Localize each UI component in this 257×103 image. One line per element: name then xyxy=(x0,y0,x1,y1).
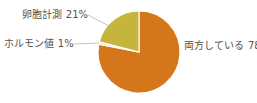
leader-line-hormone xyxy=(74,43,99,44)
pie-label-follicle: 卵胞計測 21% xyxy=(22,9,88,21)
pie-label-hormone: ホルモン値 1% xyxy=(4,38,74,50)
leader-line-follicle xyxy=(88,15,111,27)
pie-chart-figure: 卵胞計測 21% ホルモン値 1% 両方している 78% xyxy=(0,0,257,103)
pie-label-both: 両方している 78% xyxy=(184,40,257,52)
